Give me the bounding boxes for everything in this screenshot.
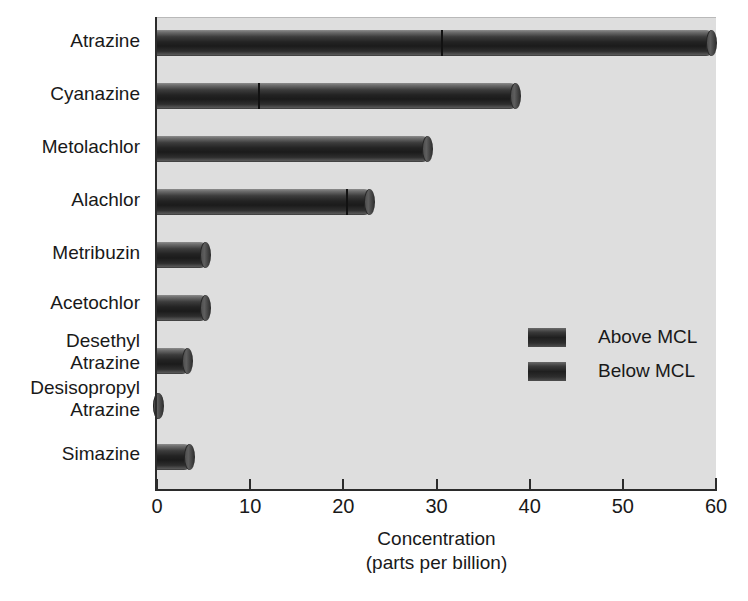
bar-acetochlor: [157, 295, 210, 321]
bar-segment-above-mcl: [157, 136, 432, 162]
x-axis-tick-label: 20: [313, 495, 373, 517]
category-label-line: Atrazine: [70, 30, 140, 51]
bar-metribuzin: [157, 242, 210, 268]
category-label-simazine: Simazine: [62, 443, 140, 465]
bar-end-cap: [706, 30, 717, 56]
bar-segment-below-mcl: [346, 189, 374, 215]
x-axis-tick-label: 50: [593, 495, 653, 517]
bar-desethyl-atrazine: [157, 348, 192, 374]
legend-label-above-mcl: Above MCL: [598, 326, 697, 348]
bar-segment-above-mcl: [157, 30, 441, 56]
legend-swatch-above-mcl: [528, 328, 566, 347]
x-axis-tick-label: 40: [500, 495, 560, 517]
category-label-desethyl-atrazine: Desethyl Atrazine: [66, 330, 140, 374]
bar-end-cap: [364, 189, 375, 215]
category-label-atrazine: Atrazine: [70, 30, 140, 52]
category-label-metolachlor: Metolachlor: [42, 136, 140, 158]
bar-segment-above-mcl: [157, 393, 163, 419]
category-label-line: Simazine: [62, 443, 140, 464]
category-label-desisopropyl-atrazine: Desisopropyl Atrazine: [30, 377, 140, 421]
bar-desisopropyl-atrazine: [157, 393, 163, 419]
bar-segment-above-mcl: [157, 83, 258, 109]
x-axis-tick: [715, 479, 717, 491]
bar-alachlor: [157, 189, 374, 215]
bar-segment-above-mcl: [157, 348, 192, 374]
legend-entry-above-mcl: Above MCL: [528, 320, 697, 354]
category-label-acetochlor: Acetochlor: [50, 292, 140, 314]
bar-atrazine: [157, 30, 716, 56]
bar-metolachlor: [157, 136, 432, 162]
category-label-line: Cyanazine: [50, 83, 140, 104]
category-label-line: Metribuzin: [52, 242, 140, 263]
bar-end-cap: [422, 136, 433, 162]
x-axis-tick: [156, 479, 158, 491]
bar-end-cap: [182, 348, 193, 374]
bar-end-cap: [184, 444, 195, 470]
x-axis-tick: [529, 479, 531, 491]
bar-segment-above-mcl: [157, 444, 194, 470]
legend: Above MCL Below MCL: [528, 320, 697, 388]
x-axis-tick-label: 30: [407, 495, 467, 517]
x-axis-tick: [249, 479, 251, 491]
bar-segment-below-mcl: [441, 30, 716, 56]
bar-segment-below-mcl: [258, 83, 521, 109]
x-axis-tick-label: 0: [127, 495, 187, 517]
category-label-line: Acetochlor: [50, 292, 140, 313]
x-axis-title-line1: Concentration: [157, 527, 716, 551]
bar-end-cap: [200, 242, 211, 268]
bar-segment-above-mcl: [157, 295, 210, 321]
x-axis-title: Concentration (parts per billion): [157, 527, 716, 575]
category-label-metribuzin: Metribuzin: [52, 242, 140, 264]
bar-end-cap: [510, 83, 521, 109]
x-axis-tick: [436, 479, 438, 491]
category-label-line: Atrazine: [30, 399, 140, 421]
x-axis-tick: [622, 479, 624, 491]
category-label-line: Atrazine: [66, 352, 140, 374]
category-label-line: Metolachlor: [42, 136, 140, 157]
y-axis-line: [155, 17, 157, 491]
category-label-alachlor: Alachlor: [71, 189, 140, 211]
bar-segment-above-mcl: [157, 189, 346, 215]
category-label-cyanazine: Cyanazine: [50, 83, 140, 105]
category-label-line: Desisopropyl: [30, 377, 140, 398]
category-label-line: Alachlor: [71, 189, 140, 210]
bar-simazine: [157, 444, 194, 470]
x-axis-tick-label: 10: [220, 495, 280, 517]
bar-cyanazine: [157, 83, 520, 109]
bar-chart: Atrazine Cyanazine Metolachlor Alachlor …: [0, 0, 748, 601]
plot-top-edge: [157, 17, 716, 18]
x-axis-tick: [342, 479, 344, 491]
legend-entry-below-mcl: Below MCL: [528, 354, 697, 388]
legend-swatch-below-mcl: [528, 362, 566, 381]
x-axis-title-line2: (parts per billion): [157, 551, 716, 575]
x-axis-tick-label: 60: [686, 495, 746, 517]
bar-end-cap: [200, 295, 211, 321]
legend-label-below-mcl: Below MCL: [598, 360, 695, 382]
bar-segment-above-mcl: [157, 242, 210, 268]
category-label-line: Desethyl: [66, 330, 140, 351]
